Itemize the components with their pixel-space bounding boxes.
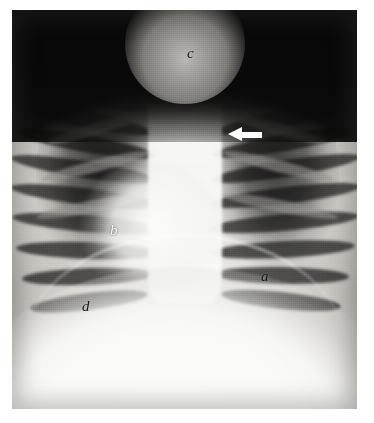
arrow-head-icon (228, 127, 242, 141)
annotation-label-d: d (82, 299, 90, 314)
film-grain-texture (12, 10, 357, 409)
pointer-arrow-marker (228, 127, 262, 142)
chest-radiograph-image (12, 10, 357, 409)
arrow-shaft (240, 132, 262, 138)
annotation-label-c: c (187, 46, 194, 61)
annotation-label-a: a (261, 269, 269, 284)
screenshot-root: c b a d (0, 0, 374, 423)
annotation-label-b: b (110, 223, 118, 238)
